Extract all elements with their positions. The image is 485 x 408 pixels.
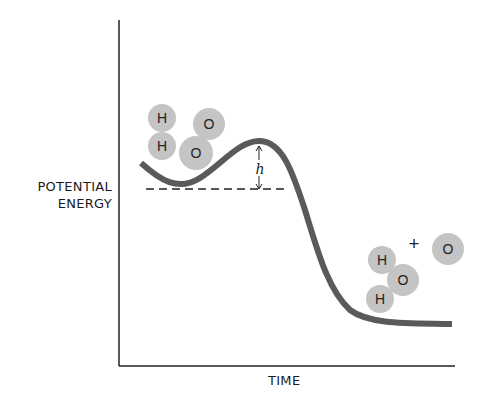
atom-label: O <box>191 145 202 161</box>
atom-label: O <box>398 272 409 288</box>
barrier-height-label: h <box>255 161 264 177</box>
atom-label: O <box>443 241 454 257</box>
atom-label: H <box>375 291 385 307</box>
y-axis-label-line1: POTENTIAL <box>20 178 112 195</box>
atom-label: H <box>377 252 387 268</box>
energy-curve <box>141 141 452 324</box>
x-axis-label: TIME <box>268 373 300 388</box>
atom-label: O <box>204 116 215 132</box>
plus-sign: + <box>409 234 420 254</box>
y-axis-label-line2: ENERGY <box>20 195 112 212</box>
atom-label: H <box>157 138 167 154</box>
y-axis-label: POTENTIAL ENERGY <box>20 178 112 212</box>
atom-label: H <box>157 110 167 126</box>
